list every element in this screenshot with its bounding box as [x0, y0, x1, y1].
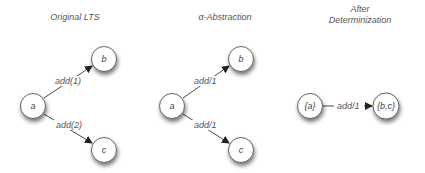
svg-text:b: b [238, 54, 243, 64]
svg-text:c: c [102, 145, 107, 155]
node-b[interactable]: b [229, 47, 254, 72]
svg-text:{b,c}: {b,c} [377, 101, 395, 111]
node-set-a[interactable]: {a} [298, 94, 323, 119]
node-b[interactable]: b [92, 47, 117, 72]
edge-label-a-b: add(1) [55, 76, 81, 86]
node-set-bc[interactable]: {b,c} [373, 93, 399, 119]
svg-text:c: c [239, 145, 244, 155]
edge-label-a-c: add/1 [194, 120, 217, 130]
edge-label-a-bc: add/1 [337, 101, 360, 111]
node-c[interactable]: c [92, 138, 117, 163]
edge-label-a-c: add(2) [56, 120, 82, 130]
panel-after-determinization: add/1 {a} {b,c} [298, 93, 400, 119]
node-a[interactable]: a [21, 94, 46, 119]
svg-text:{a}: {a} [304, 101, 315, 111]
svg-text:a: a [30, 101, 35, 111]
panel-alpha-abstraction: add/1 add/1 a b c [160, 47, 254, 163]
diagram-canvas: add(1) add(2) a b c add/1 add/1 a b [0, 0, 425, 173]
node-a[interactable]: a [160, 94, 185, 119]
svg-text:a: a [169, 101, 174, 111]
panel-original-lts: add(1) add(2) a b c [21, 47, 117, 163]
edge-label-a-b: add/1 [194, 76, 217, 86]
node-c[interactable]: c [229, 138, 254, 163]
svg-text:b: b [101, 54, 106, 64]
